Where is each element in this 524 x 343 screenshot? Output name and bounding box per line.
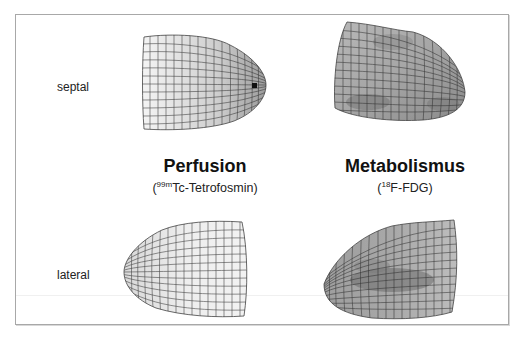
perfusion-septal-heart-mesh: [142, 33, 268, 133]
column-subtitle-perfusion: (99mTc-Tetrofosmin): [120, 181, 290, 195]
column-title-perfusion: Perfusion: [130, 156, 280, 177]
isotope-mass: 99m: [157, 180, 173, 189]
tracer-name: F-FDG: [390, 181, 428, 195]
column-title-metabolism: Metabolismus: [330, 156, 480, 177]
perfusion-lateral-heart-mesh: [122, 220, 248, 320]
metabolism-lateral-heart-mesh: [322, 218, 458, 320]
apex-defect-spot: [252, 83, 257, 88]
row-label-septal: septal: [57, 80, 89, 94]
column-subtitle-metabolism: (18F-FDG): [345, 181, 465, 195]
row-label-lateral: lateral: [57, 268, 90, 282]
tracer-name: Tc-Tetrofosmin: [172, 181, 253, 195]
metabolism-septal-heart-mesh: [333, 20, 467, 124]
